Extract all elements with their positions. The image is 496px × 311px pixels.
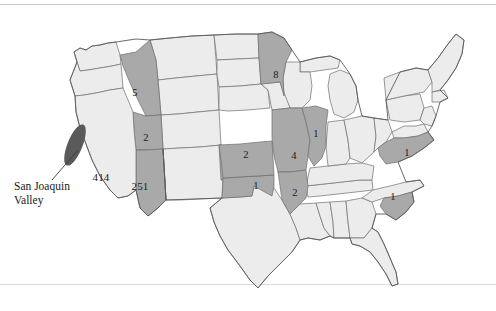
state-montana (150, 35, 217, 80)
valley-annotation: San Joaquin Valley (14, 180, 70, 207)
state-new-york (384, 68, 432, 100)
value-label-idaho: 5 (132, 87, 137, 98)
value-label-minnesota: 8 (273, 69, 278, 80)
value-label-oklahoma: 1 (253, 180, 258, 191)
value-label-arizona: 251 (131, 180, 148, 192)
figure-container: 5 8 2 414 251 2 4 1 1 2 1 1 San Joaquin … (0, 0, 496, 311)
state-missouri-shaded (272, 108, 310, 172)
valley-annotation-line1: San Joaquin (14, 180, 70, 194)
state-new-mexico (163, 145, 223, 200)
state-north-dakota (214, 34, 259, 60)
value-label-illinois: 1 (313, 128, 318, 139)
state-south-dakota (217, 58, 261, 87)
value-label-missouri: 4 (291, 150, 296, 161)
value-label-california: 414 (92, 171, 109, 183)
state-michigan (328, 70, 358, 118)
state-wyoming (158, 74, 219, 115)
valley-annotation-line2: Valley (14, 194, 70, 208)
state-michigan-up (300, 56, 340, 72)
value-label-arkansas: 2 (292, 187, 297, 198)
state-nebraska (219, 84, 270, 111)
value-label-kansas: 2 (243, 149, 248, 160)
state-kansas (219, 141, 274, 178)
value-label-virginia: 1 (404, 147, 409, 158)
value-label-utah: 2 (143, 132, 148, 143)
state-colorado (161, 110, 221, 149)
value-label-south-carolina: 1 (390, 191, 395, 202)
